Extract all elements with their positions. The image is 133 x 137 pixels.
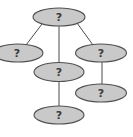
node-middle: ?: [34, 63, 84, 82]
node-middle-label: ?: [56, 66, 62, 79]
node-left-shape: [0, 44, 43, 62]
node-right: ?: [76, 44, 127, 62]
node-right-label: ?: [98, 47, 104, 60]
node-right-child: ?: [76, 84, 127, 102]
node-root-label: ?: [56, 11, 62, 24]
node-left-label: ?: [14, 47, 20, 60]
edge-root-left: [26, 24, 42, 45]
node-bottom-label: ?: [56, 109, 62, 122]
node-left: ?: [0, 44, 43, 62]
edge-root-right: [77, 23, 93, 45]
tree-diagram: ? ? ? ? ? ?: [0, 0, 133, 137]
node-root: ?: [33, 8, 85, 26]
node-bottom: ?: [34, 106, 84, 124]
node-right-child-label: ?: [98, 87, 104, 100]
